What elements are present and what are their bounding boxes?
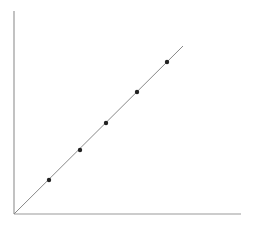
data-point xyxy=(47,178,51,182)
data-point xyxy=(165,60,169,64)
data-point xyxy=(104,121,108,125)
data-point xyxy=(135,90,139,94)
data-point xyxy=(78,148,82,152)
scatter-chart xyxy=(0,0,253,228)
trend-line xyxy=(14,46,183,214)
axes xyxy=(14,11,241,214)
